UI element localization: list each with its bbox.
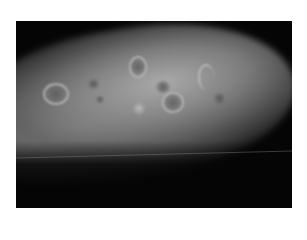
lesion-dark-macule xyxy=(88,79,99,89)
lesion-raised-nodule xyxy=(132,102,146,115)
lesion-crescent-right xyxy=(198,64,214,90)
lesion-small-spot xyxy=(96,96,104,103)
clinical-photo xyxy=(16,21,292,208)
lesion-crusted-top xyxy=(129,56,147,78)
lesion-annular-left xyxy=(43,83,69,105)
lesion-dark-papule xyxy=(156,81,170,93)
lesion-dark-right xyxy=(214,93,225,104)
lesion-annular-center xyxy=(162,92,184,113)
